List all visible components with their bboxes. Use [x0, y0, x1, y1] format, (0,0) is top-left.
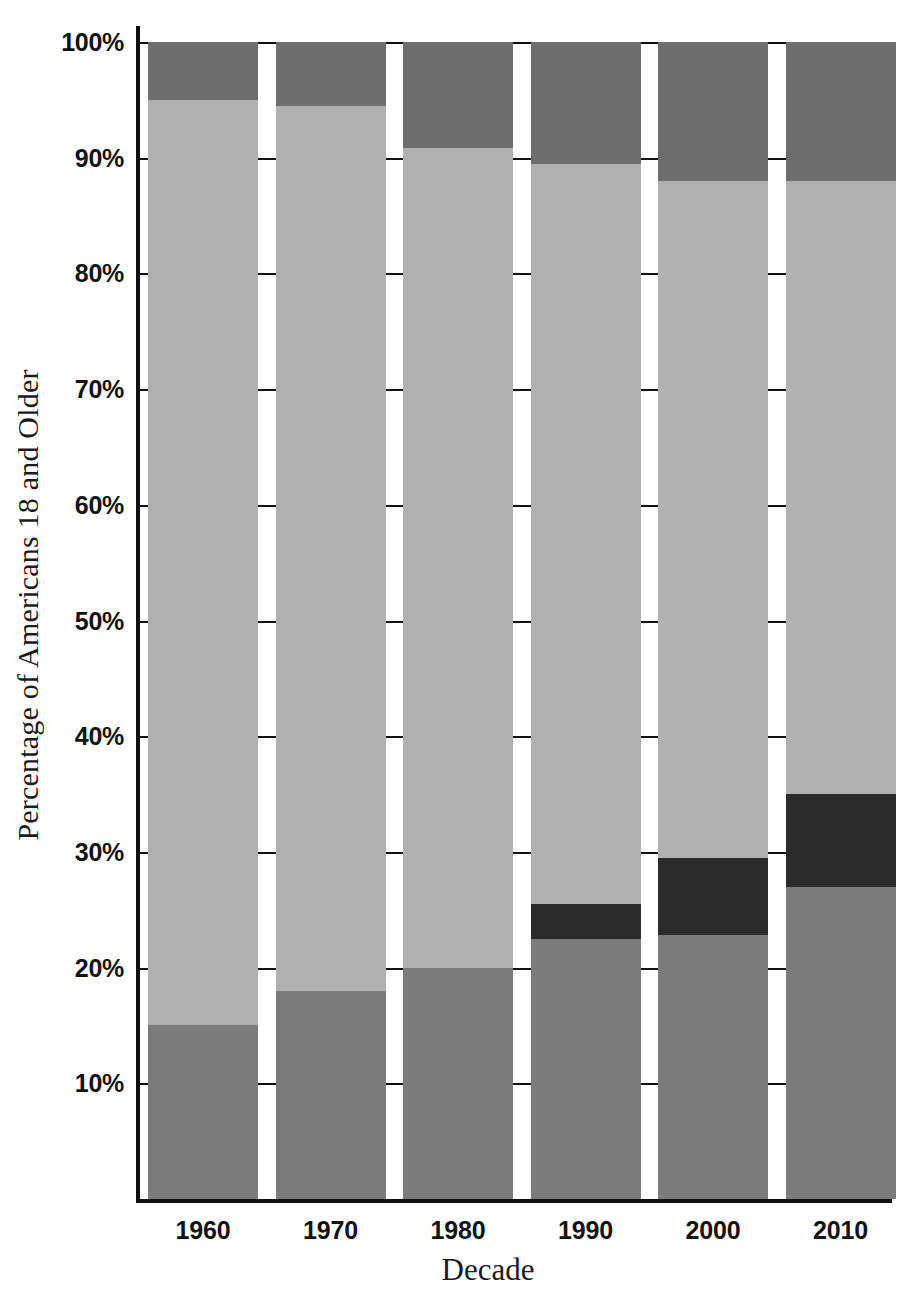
y-tick-label-30pct: 30%: [75, 837, 124, 866]
bar-segment-2000-segment-2-dark[interactable]: [658, 858, 768, 936]
bar-segment-2000-segment-3-light[interactable]: [658, 181, 768, 858]
bar-segment-2000-segment-4-top[interactable]: [658, 42, 768, 181]
y-tick-label-60pct: 60%: [75, 490, 124, 519]
bar-segment-1970-segment-1-bottom[interactable]: [276, 991, 386, 1199]
bar-segment-1980-segment-4-top[interactable]: [403, 42, 513, 148]
y-axis-title: Percentage of Americans 18 and Older: [0, 0, 56, 1210]
bar-segment-2000-segment-1-bottom[interactable]: [658, 935, 768, 1199]
bar-segment-1960-segment-3-light[interactable]: [148, 100, 258, 1026]
y-axis-line: [136, 26, 140, 1203]
y-tick-label-10pct: 10%: [75, 1069, 124, 1098]
x-category-label-2010: 2010: [786, 1216, 896, 1245]
x-category-label-2000: 2000: [658, 1216, 768, 1245]
x-category-label-1980: 1980: [403, 1216, 513, 1245]
bar-segment-1990-segment-3-light[interactable]: [531, 164, 641, 904]
y-tick-label-40pct: 40%: [75, 722, 124, 751]
bar-segment-2010-segment-1-bottom[interactable]: [786, 887, 896, 1199]
bar-segment-1980-segment-3-light[interactable]: [403, 148, 513, 967]
bar-1960[interactable]: [148, 42, 258, 1199]
bar-1990[interactable]: [531, 42, 641, 1199]
bar-segment-1960-segment-4-top[interactable]: [148, 42, 258, 100]
bar-1970[interactable]: [276, 42, 386, 1199]
bar-segment-2010-segment-4-top[interactable]: [786, 42, 896, 181]
bar-segment-2010-segment-2-dark[interactable]: [786, 794, 896, 887]
y-tick-label-50pct: 50%: [75, 606, 124, 635]
y-tick-label-90pct: 90%: [75, 143, 124, 172]
bar-segment-2010-segment-3-light[interactable]: [786, 181, 896, 794]
bar-segment-1990-segment-2-dark[interactable]: [531, 904, 641, 939]
y-tick-label-20pct: 20%: [75, 953, 124, 982]
x-axis-line: [136, 1199, 892, 1203]
bar-2000[interactable]: [658, 42, 768, 1199]
bar-segment-1990-segment-4-top[interactable]: [531, 42, 641, 163]
x-category-label-1990: 1990: [531, 1216, 641, 1245]
y-tick-label-80pct: 80%: [75, 259, 124, 288]
y-axis-title-text: Percentage of Americans 18 and Older: [11, 369, 45, 840]
bar-2010[interactable]: [786, 42, 896, 1199]
bar-1980[interactable]: [403, 42, 513, 1199]
x-category-label-1970: 1970: [276, 1216, 386, 1245]
plot-area: 100%90%80%70%60%50%40%30%20%10% 19601970…: [136, 26, 892, 1203]
bar-segment-1970-segment-3-light[interactable]: [276, 106, 386, 991]
x-axis-title: Decade: [56, 1252, 920, 1288]
bar-segment-1980-segment-1-bottom[interactable]: [403, 968, 513, 1199]
chart-container: Percentage of Americans 18 and Older 100…: [0, 0, 920, 1315]
y-tick-label-70pct: 70%: [75, 375, 124, 404]
bar-segment-1960-segment-1-bottom[interactable]: [148, 1025, 258, 1199]
bar-segment-1970-segment-4-top[interactable]: [276, 42, 386, 106]
x-category-label-1960: 1960: [148, 1216, 258, 1245]
bar-segment-1990-segment-1-bottom[interactable]: [531, 939, 641, 1199]
y-tick-label-100pct: 100%: [61, 28, 124, 57]
